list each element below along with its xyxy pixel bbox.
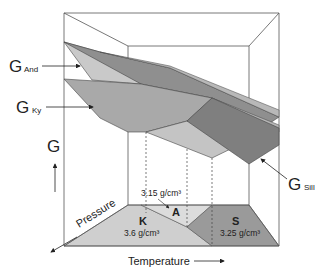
svg-text:Ky: Ky <box>32 106 41 115</box>
svg-text:G: G <box>47 137 60 156</box>
svg-text:G: G <box>16 98 29 117</box>
temperature-axis: Temperature <box>128 255 224 267</box>
g-axis: G <box>47 137 60 192</box>
field-letter-andalusite: A <box>172 206 180 218</box>
field-density-sillimanite: 3.25 g/cm³ <box>220 228 260 238</box>
arrow-icon <box>261 159 287 179</box>
svg-text:G: G <box>288 175 301 194</box>
field-density-andalusite: 3.15 g/cm³ <box>141 188 181 198</box>
field-density-kyanite: 3.6 g/cm³ <box>124 228 160 238</box>
label-g-kyanite: G Ky <box>16 98 93 117</box>
field-letter-kyanite: K <box>139 215 147 227</box>
svg-text:G: G <box>9 57 22 76</box>
phase-diagram: G And G Ky G Sill G Pressure Temperature… <box>0 0 327 272</box>
svg-text:Sill: Sill <box>304 183 315 192</box>
label-g-sillimanite: G Sill <box>261 159 315 194</box>
label-g-andalusite: G And <box>9 57 80 76</box>
field-letter-sillimanite: S <box>232 215 239 227</box>
svg-text:Temperature: Temperature <box>128 255 190 267</box>
svg-text:And: And <box>24 65 38 74</box>
